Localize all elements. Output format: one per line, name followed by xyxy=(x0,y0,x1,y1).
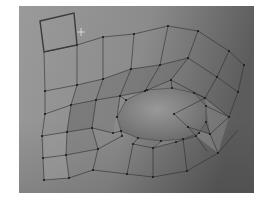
mesh-canvas[interactable] xyxy=(19,6,254,193)
3d-viewport[interactable] xyxy=(19,6,254,193)
